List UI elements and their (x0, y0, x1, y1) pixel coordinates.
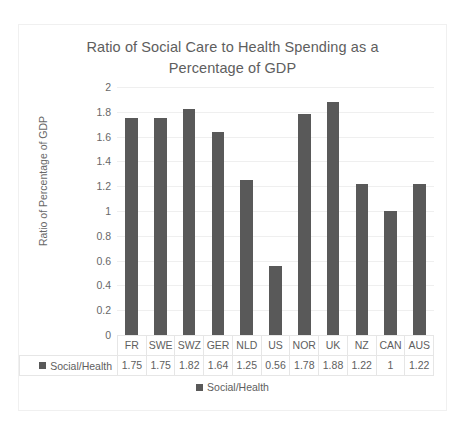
bar-slot (203, 87, 232, 335)
value-cell: 1.25 (233, 355, 262, 376)
bar-slot (405, 87, 434, 335)
value-cell: 0.56 (262, 355, 291, 376)
bar-swe[interactable] (154, 118, 167, 335)
value-cell: 1.75 (117, 355, 147, 376)
y-axis-tick-label: 1.2 (96, 180, 111, 192)
category-cell: NLD (233, 335, 262, 355)
bar-slot (290, 87, 319, 335)
series-color-swatch-icon (39, 362, 46, 369)
y-axis-tick-label: 0.6 (96, 255, 111, 267)
category-cell: UK (319, 335, 348, 355)
value-cell: 1.22 (348, 355, 377, 376)
category-cell: AUS (405, 335, 434, 355)
bar-aus[interactable] (413, 184, 426, 335)
value-cell: 1.88 (319, 355, 348, 376)
category-row-header (19, 335, 117, 355)
bar-nz[interactable] (356, 184, 369, 335)
y-axis-tick-label: 0.4 (96, 279, 111, 291)
bar-swz[interactable] (183, 109, 196, 335)
category-cells: FRSWESWZGERNLDUSNORUKNZCANAUS (117, 335, 446, 355)
legend-color-swatch-icon (196, 384, 203, 391)
table-row-values: Social/Health 1.751.751.821.641.250.561.… (19, 355, 446, 376)
value-row-label: Social/Health (50, 360, 112, 372)
bar-uk[interactable] (327, 102, 340, 335)
bar-slot (348, 87, 377, 335)
category-cell: NOR (290, 335, 319, 355)
bar-nld[interactable] (240, 180, 253, 335)
y-axis-tick-label: 1.4 (96, 155, 111, 167)
bar-slot (146, 87, 175, 335)
value-row-header: Social/Health (19, 355, 117, 376)
category-cell: NZ (348, 335, 377, 355)
value-cell: 1.64 (204, 355, 233, 376)
bar-slot (232, 87, 261, 335)
bar-nor[interactable] (298, 114, 311, 335)
y-axis-tick-labels: 21.81.61.41.210.80.60.40.20 (81, 87, 111, 335)
bar-can[interactable] (384, 211, 397, 335)
category-cell: US (262, 335, 291, 355)
chart-legend: Social/Health (19, 381, 446, 393)
bar-slot (175, 87, 204, 335)
y-axis-tick-label: 0.8 (96, 230, 111, 242)
y-axis-tick-label: 1.6 (96, 131, 111, 143)
y-axis-tick-label: 1 (105, 205, 111, 217)
category-cell: CAN (377, 335, 406, 355)
y-axis-tick-label: 1.8 (96, 106, 111, 118)
y-axis-title: Ratio of Percentage of GDP (37, 81, 49, 281)
plot-area (117, 87, 434, 335)
legend-entry-label: Social/Health (207, 381, 269, 393)
bar-fr[interactable] (125, 118, 138, 335)
value-cell: 1.75 (147, 355, 176, 376)
chart-title: Ratio of Social Care to Health Spending … (53, 37, 412, 78)
bar-slot (261, 87, 290, 335)
bar-slot (376, 87, 405, 335)
category-cell: FR (117, 335, 147, 355)
category-cell: GER (204, 335, 233, 355)
value-cell: 1.22 (405, 355, 434, 376)
category-cell: SWE (147, 335, 176, 355)
plot-region: Ratio of Percentage of GDP 21.81.61.41.2… (19, 87, 446, 335)
data-table: FRSWESWZGERNLDUSNORUKNZCANAUS Social/Hea… (19, 335, 446, 376)
y-axis-tick-label: 0.2 (96, 304, 111, 316)
value-cell: 1 (377, 355, 406, 376)
category-cell: SWZ (175, 335, 204, 355)
value-cells: 1.751.751.821.641.250.561.781.881.2211.2… (117, 355, 446, 376)
value-cell: 1.82 (175, 355, 204, 376)
bar-ger[interactable] (212, 132, 225, 335)
bar-series (117, 87, 434, 335)
bar-slot (117, 87, 146, 335)
bar-slot (319, 87, 348, 335)
value-cell: 1.78 (290, 355, 319, 376)
chart-container: Ratio of Social Care to Health Spending … (18, 24, 447, 411)
y-axis-tick-label: 2 (105, 81, 111, 93)
bar-us[interactable] (269, 266, 282, 335)
table-row-categories: FRSWESWZGERNLDUSNORUKNZCANAUS (19, 335, 446, 355)
